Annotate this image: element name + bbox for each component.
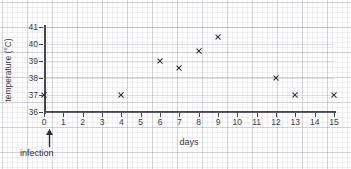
y-gridline	[44, 95, 334, 96]
y-gridline	[44, 27, 334, 28]
y-axis-tick	[39, 78, 43, 79]
x-axis-tick-label: 6	[158, 118, 163, 127]
y-axis-tick-label: 41	[29, 23, 38, 32]
data-point	[157, 58, 164, 65]
data-point	[176, 64, 183, 71]
data-point	[273, 75, 280, 82]
y-gridline	[44, 44, 334, 45]
y-axis-tick	[39, 112, 43, 113]
x-axis-tick-label: 13	[291, 118, 300, 127]
x-axis-tick-label: 7	[177, 118, 182, 127]
y-axis-tick	[39, 44, 43, 45]
x-axis-tick-label: 4	[119, 118, 124, 127]
data-point	[331, 92, 338, 99]
x-axis-tick-label: 10	[233, 118, 242, 127]
y-axis-tick-label: 39	[29, 57, 38, 66]
x-axis-tick-label: 9	[216, 118, 221, 127]
x-axis-tick-label: 1	[61, 118, 66, 127]
x-axis-tick-label: 11	[252, 118, 261, 127]
data-point	[41, 92, 48, 99]
data-point	[118, 92, 125, 99]
data-point	[292, 92, 299, 99]
x-axis-tick-label: 8	[196, 118, 201, 127]
infection-annotation: infection	[20, 129, 116, 163]
y-axis-tick-label: 38	[29, 74, 38, 83]
x-axis-tick-label: 12	[271, 118, 280, 127]
chart-figure: temperature (°C) 363738394041 0123456789…	[0, 0, 351, 169]
plot-area: 363738394041	[44, 27, 334, 112]
up-arrow-icon	[45, 129, 54, 147]
infection-label: infection	[20, 148, 54, 158]
x-axis-tick-label: 0	[42, 118, 47, 127]
x-axis-tick-label: 5	[138, 118, 143, 127]
y-axis-tick-label: 37	[29, 91, 38, 100]
y-axis-tick-label: 40	[29, 40, 38, 49]
y-axis-title: temperature (°C)	[3, 38, 13, 101]
y-axis-tick	[39, 27, 43, 28]
data-point	[215, 34, 222, 41]
y-gridline	[44, 61, 334, 62]
data-point	[195, 47, 202, 54]
x-axis-tick-label: 2	[80, 118, 85, 127]
x-axis-title: days	[179, 137, 198, 147]
y-gridline	[44, 78, 334, 79]
y-axis-tick-label: 36	[29, 108, 38, 117]
x-axis-tick-label: 3	[100, 118, 105, 127]
y-axis-tick	[39, 61, 43, 62]
x-axis-tick-label: 15	[329, 118, 338, 127]
x-axis-tick-label: 14	[310, 118, 319, 127]
